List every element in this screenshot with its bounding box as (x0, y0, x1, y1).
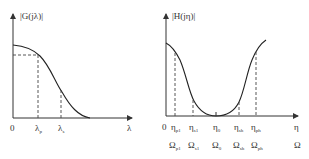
tick-lambda-p: λp (35, 123, 42, 134)
tick-eta-s1: ηs1 (189, 122, 199, 133)
tick-omega-sh: Ωsh (233, 140, 245, 151)
tick-eta-ph: ηph (251, 122, 261, 133)
x-axis-label: λ (127, 123, 132, 133)
bandstop-plot: |H(jη)| 0 ηp1 ηs1 η0 ηsh ηph η Ωp1 Ωs1 Ω… (162, 11, 301, 151)
tick-omega-0: Ω0 (212, 140, 222, 151)
x-axis-label-omega: Ω (294, 140, 301, 150)
origin-label: 0 (10, 123, 15, 133)
tick-omega-ph: Ωph (251, 140, 263, 151)
tick-lambda-s: λs (58, 123, 64, 134)
tick-eta-p1: ηp1 (171, 122, 181, 133)
y-axis-label: |H(jη)| (172, 11, 196, 21)
tick-eta-sh: ηsh (234, 122, 244, 133)
tick-omega-s1: Ωs1 (188, 140, 200, 151)
bandstop-curve (166, 40, 266, 116)
y-axis-label: |G(jλ)| (20, 11, 43, 21)
filter-diagram: |G(jλ)| 0 λp λs λ |H(jη)| 0 ηp1 ηs1 η0 η… (0, 0, 309, 159)
tick-eta-0: η0 (213, 122, 221, 133)
origin-label: 0 (162, 122, 167, 132)
x-axis-label-eta: η (294, 122, 299, 132)
tick-omega-p1: Ωp1 (169, 140, 181, 151)
lowpass-curve (13, 45, 90, 118)
lowpass-plot: |G(jλ)| 0 λp λs λ (10, 11, 132, 134)
